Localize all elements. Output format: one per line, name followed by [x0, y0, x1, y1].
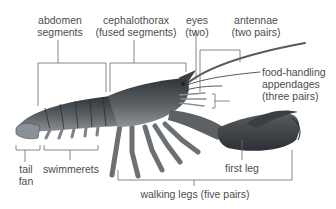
label-antennae: antennae (two pairs) [226, 14, 286, 38]
label-abdomen-segments: abdomen segments [30, 14, 90, 38]
label-line: (two) [182, 26, 212, 38]
label-eyes: eyes (two) [182, 14, 212, 38]
food-handling-appendages-icon [180, 93, 206, 106]
label-line: walking legs (five pairs) [130, 188, 260, 200]
label-line: (three pairs) [262, 90, 326, 102]
label-walking-legs: walking legs (five pairs) [130, 188, 260, 200]
label-line: appendages [262, 78, 326, 90]
walking-legs-icon [112, 124, 198, 176]
label-line: abdomen [30, 14, 90, 26]
label-food-handling-appendages: food-handling appendages (three pairs) [262, 66, 326, 102]
label-line: eyes [182, 14, 212, 26]
label-line: antennae [226, 14, 286, 26]
label-line: first leg [212, 162, 272, 174]
crayfish-anatomy-diagram: abdomen segments cephalothorax (fused se… [0, 0, 336, 209]
label-line: cephalothorax [90, 14, 182, 26]
label-first-leg: first leg [212, 162, 272, 174]
label-line: swimmerets [40, 163, 102, 175]
label-cephalothorax: cephalothorax (fused segments) [90, 14, 182, 38]
label-line: segments [30, 26, 90, 38]
label-line: (two pairs) [226, 26, 286, 38]
label-swimmerets: swimmerets [40, 163, 102, 175]
label-tail-fan: tail fan [12, 163, 40, 187]
label-line: tail [12, 163, 40, 175]
label-line: fan [12, 175, 40, 187]
label-line: (fused segments) [90, 26, 182, 38]
label-line: food-handling [262, 66, 326, 78]
eye-icon [181, 82, 185, 86]
tail-fan-icon [16, 123, 40, 139]
